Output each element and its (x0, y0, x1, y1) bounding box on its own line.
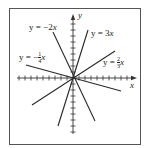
label-two-thirds-x: y = 23x (103, 56, 124, 69)
y-axis-arrow-icon (71, 14, 75, 20)
label-neg-quarter-x: y = −14x (19, 51, 45, 64)
graph-figure (0, 0, 144, 148)
axes (17, 18, 134, 134)
label-3x: y = 3x (91, 29, 114, 38)
label-neg-2x: y = −2x (29, 23, 57, 32)
y-axis-label: y (78, 11, 82, 20)
x-axis-label: x (130, 81, 134, 90)
